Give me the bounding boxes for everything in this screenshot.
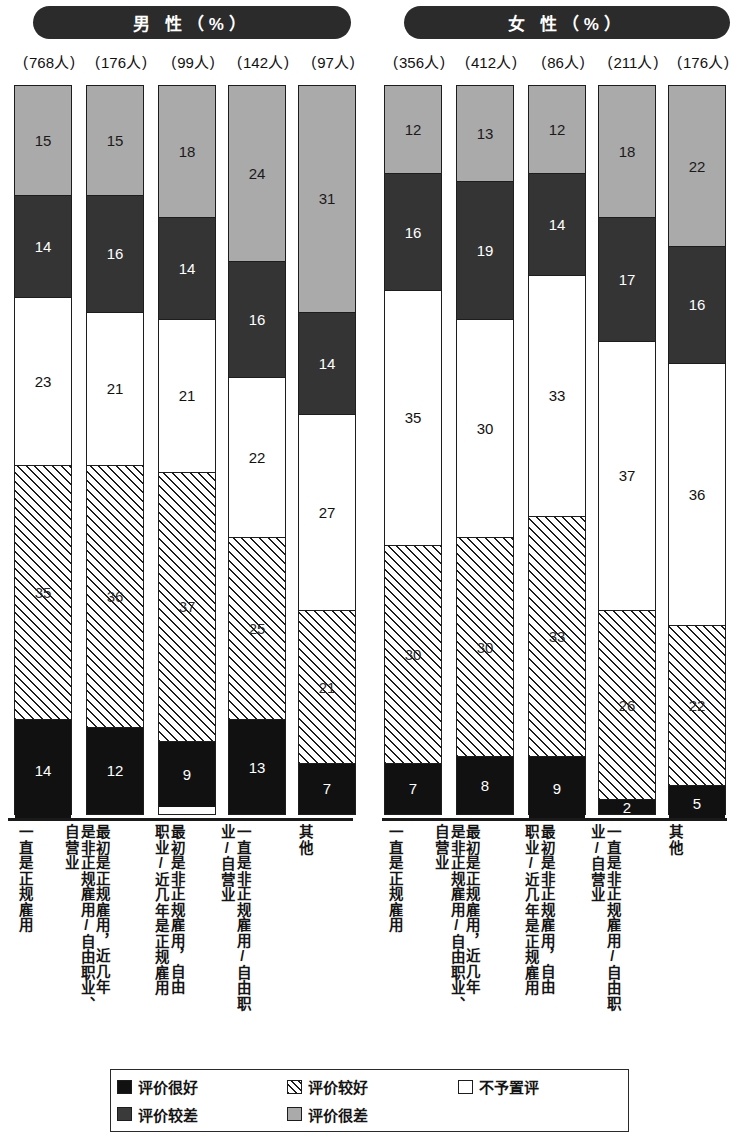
category-label-column: 最初是非正规雇用，自由	[538, 824, 554, 995]
bar-segment-value: 25	[249, 621, 266, 636]
bar-segment-neutral: 33	[529, 275, 585, 515]
paren-close: )	[439, 53, 446, 70]
sample-size-value: 142人	[243, 51, 283, 72]
stacked-bar: 311427217	[298, 85, 356, 815]
sample-size-row-female: (356人)(412人)(86人)(211人)(176人)	[376, 50, 736, 72]
sample-size-male-3: (142人)	[226, 51, 300, 72]
bar-segment-verybad: 12	[529, 86, 585, 173]
bar-segment-bad: 16	[385, 173, 441, 289]
bar-segment-value: 17	[619, 272, 636, 287]
bar-segment-value: 12	[405, 122, 422, 137]
sample-size-value: 768人	[29, 51, 69, 72]
category-label-column: 最初是正规雇用，近几年	[463, 824, 479, 995]
stacked-bar: 1516213612	[86, 85, 144, 815]
category-label-female-0: 一直是正规雇用	[386, 824, 402, 933]
paren-open: (	[540, 53, 547, 70]
sample-size-value: 176人	[101, 51, 141, 72]
bar-segment-good: 30	[385, 545, 441, 763]
stacked-bar: 121635307	[384, 85, 442, 815]
bar-segment-bad: 19	[457, 181, 513, 319]
bar-segment-verybad: 18	[159, 86, 215, 217]
bar-segment-value: 15	[107, 133, 124, 148]
bar-segment-verygood: 14	[15, 719, 71, 821]
paren-close: )	[141, 53, 148, 70]
bar-segment-good: 30	[457, 537, 513, 755]
bar-segment-value: 24	[249, 166, 266, 181]
bar-segment-value: 30	[405, 647, 422, 662]
paren-open: (	[607, 53, 614, 70]
bar-segment-value: 8	[481, 778, 489, 793]
bar-segment-bad: 14	[299, 312, 355, 414]
paren-open: (	[676, 53, 683, 70]
bar-segment-neutral: 37	[599, 341, 655, 610]
category-label-column: 其他	[296, 824, 312, 855]
sample-size-value: 97人	[317, 51, 349, 72]
bar-segment-good: 25	[229, 537, 285, 719]
category-label-male-1: 最初是正规雇用，近几年是非正规雇用/自由职业、自营业	[62, 824, 109, 1011]
bar-segment-value: 36	[107, 589, 124, 604]
bar-segment-value: 9	[183, 767, 191, 782]
stacked-bar: 121433339	[528, 85, 586, 815]
bar-segment-value: 36	[689, 487, 706, 502]
panel-title-male: 男 性（%）	[33, 6, 351, 39]
category-label-column: 是非正规雇用/自由职业、	[448, 824, 464, 1011]
bar-segment-value: 16	[107, 246, 124, 261]
category-label-female-1: 最初是正规雇用，近几年是非正规雇用/自由职业、自营业	[432, 824, 479, 1011]
bar-segment-good: 35	[15, 465, 71, 720]
bar-segment-verybad: 22	[669, 86, 725, 246]
bar-segment-value: 2	[623, 800, 631, 814]
stacked-bar: 181737262	[598, 85, 656, 815]
paren-close: )	[723, 53, 730, 70]
bar-segment-good: 22	[669, 625, 725, 785]
category-label-column: 自营业	[432, 824, 448, 871]
paren-open: (	[464, 53, 471, 70]
category-label-male-0: 一直是正规雇用	[16, 824, 32, 933]
panel-title-female: 女 性（%）	[404, 6, 730, 39]
bar-segment-value: 13	[477, 126, 494, 141]
bar-segment-bad: 16	[669, 246, 725, 362]
category-labels-male: 一直是正规雇用最初是正规雇用，近几年是非正规雇用/自由职业、自营业最初是非正规雇…	[0, 824, 368, 1074]
sample-size-value: 211人	[614, 51, 653, 72]
bar-segment-value: 33	[549, 629, 566, 644]
sample-size-male-2: (99人)	[156, 51, 230, 72]
bar-segment-value: 18	[179, 144, 196, 159]
legend-item-verygood: 评价很好	[117, 1076, 287, 1097]
bar-segment-value: 22	[689, 159, 706, 174]
category-label-male-2: 最初是非正规雇用，自由职业/近几年是正规雇用	[152, 824, 183, 996]
sample-size-male-4: (97人)	[296, 51, 370, 72]
category-label-column: 一直是非正规雇用/自由职	[604, 824, 620, 1011]
bar-segment-neutral: 35	[385, 290, 441, 545]
category-label-column: 职业/近几年是正规雇用	[152, 824, 168, 996]
bar-segment-verygood: 13	[229, 719, 285, 814]
sample-size-female-1: (412人)	[454, 51, 528, 72]
bar-segment-value: 19	[477, 243, 494, 258]
bar-segment-bad: 17	[599, 217, 655, 341]
bar-segment-verygood: 8	[457, 756, 513, 814]
bar-segment-bad: 14	[159, 217, 215, 319]
sample-size-row-male: (768人)(176人)(99人)(142人)(97人)	[6, 50, 366, 72]
legend-swatch-good-icon	[287, 1080, 302, 1094]
category-label-male-3: 一直是非正规雇用/自由职业/自营业	[218, 824, 249, 1011]
sample-size-female-0: (356人)	[382, 51, 456, 72]
category-label-column: 其他	[666, 824, 682, 855]
sample-size-value: 412人	[471, 51, 511, 72]
bar-segment-neutral: 23	[15, 297, 71, 464]
bar-segment-value: 22	[689, 698, 706, 713]
bar-segment-value: 5	[693, 796, 701, 811]
stacked-bar: 2416222513	[228, 85, 286, 815]
bar-segment-value: 31	[319, 191, 336, 206]
bar-segment-good: 21	[299, 610, 355, 763]
category-label-column: 最初是正规雇用，近几年	[93, 824, 109, 995]
stacked-bar: 1514233514	[14, 85, 72, 815]
legend-label-neutral: 不予置评	[479, 1076, 539, 1097]
bar-segment-verybad: 15	[87, 86, 143, 195]
bar-segment-neutral: 27	[299, 414, 355, 611]
bar-segment-value: 14	[549, 217, 566, 232]
bar-segment-value: 23	[35, 374, 52, 389]
legend-label-good: 评价较好	[308, 1076, 368, 1097]
bar-segment-value: 21	[107, 381, 124, 396]
sample-size-value: 99人	[177, 51, 209, 72]
stacked-bar: 181421379	[158, 85, 216, 815]
paren-open: (	[236, 53, 243, 70]
bar-segment-bad: 16	[229, 261, 285, 377]
